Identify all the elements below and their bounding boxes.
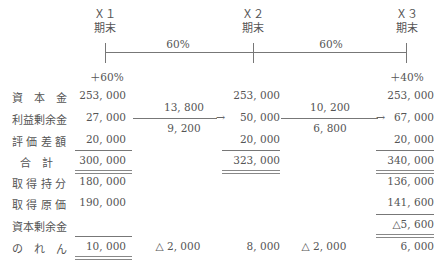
x1-total: 300, 000: [56, 154, 126, 166]
timeline-line: [105, 52, 407, 53]
x1-acquired-interest: 180, 000: [56, 175, 126, 187]
x1-valuation-difference: 20, 000: [56, 133, 126, 145]
timeline-ratio-1: 60%: [158, 38, 198, 50]
x3-surplus-double-rule: [376, 234, 434, 238]
x3-capital: 253, 000: [364, 89, 434, 101]
x3-total: 340, 000: [364, 154, 434, 166]
x3-acquired-interest: 136, 000: [364, 175, 434, 187]
x3-capital-surplus: △5, 600: [364, 218, 434, 230]
period-x1-sub: 期末: [85, 22, 125, 36]
x1-total-double-rule: [75, 170, 132, 174]
row-label-total: 合 計: [20, 154, 53, 170]
row-label-capital-surplus: 資本剰余金: [12, 218, 67, 234]
timeline-tick-x1: [105, 43, 106, 63]
x2-subtotal-rule: [222, 150, 280, 151]
x1-retained-earnings: 27, 000: [56, 111, 126, 123]
x1-capital: 253, 000: [56, 89, 126, 101]
x2-capital: 253, 000: [210, 89, 280, 101]
timeline-ratio-2: 60%: [311, 38, 351, 50]
period-x3-change: ＋40%: [387, 69, 427, 84]
x3-surplus-rule: [376, 214, 434, 215]
period-x1-change: ＋60%: [87, 69, 127, 84]
transfer-x2-x3-lower: 6, 800: [300, 122, 360, 134]
x2-total-double-rule: [222, 170, 280, 174]
period-x3-sub: 期末: [387, 22, 427, 36]
x2-goodwill: 8, 000: [210, 240, 280, 252]
period-x1-label: Ｘ１: [85, 8, 125, 22]
x1-goodwill-double-rule: [75, 256, 132, 260]
x1-goodwill-rule: [75, 236, 132, 237]
x3-total-double-rule: [376, 170, 434, 174]
period-x2-label: Ｘ２: [233, 8, 273, 22]
transfer-x1-x2-lower: 9, 200: [154, 122, 214, 134]
x3-acquisition-cost: 141, 600: [364, 196, 434, 208]
x1-acquisition-cost: 190, 000: [56, 196, 126, 208]
x1-goodwill: 10, 000: [56, 240, 126, 252]
x3-retained-earnings: 67, 000: [364, 111, 434, 123]
timeline-tick-x2: [253, 43, 254, 63]
amortization-x2-x3: △ 2, 000: [294, 240, 354, 252]
x1-subtotal-rule: [75, 150, 132, 151]
x3-goodwill: 6, 000: [364, 240, 434, 252]
arrow-x1-x2-line: [133, 118, 217, 119]
x2-retained-earnings: 50, 000: [210, 111, 280, 123]
timeline-tick-x3: [406, 43, 407, 63]
x3-subtotal-rule: [376, 150, 434, 151]
x3-valuation-difference: 20, 000: [364, 133, 434, 145]
period-x2-sub: 期末: [233, 22, 273, 36]
amortization-x1-x2: △ 2, 000: [148, 240, 208, 252]
period-x3-label: Ｘ３: [387, 8, 427, 22]
transfer-x1-x2-upper: 13, 800: [154, 101, 214, 113]
x2-valuation-difference: 20, 000: [210, 133, 280, 145]
x2-total: 323, 000: [210, 154, 280, 166]
transfer-x2-x3-upper: 10, 200: [300, 101, 360, 113]
